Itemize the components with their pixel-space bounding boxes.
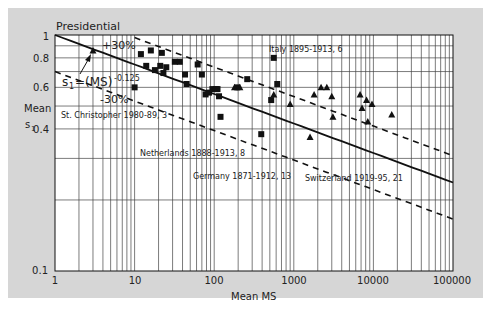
x-tick-10000: 10000	[357, 275, 389, 286]
svg-text:s: s	[62, 75, 68, 89]
x-tick-10: 10	[129, 275, 142, 286]
germany-label: Germany 1871-1912, 13	[193, 172, 291, 181]
square-marker	[157, 63, 163, 69]
x-axis-label: Mean MS	[231, 291, 276, 302]
square-marker	[177, 59, 183, 65]
svg-text:1: 1	[69, 82, 74, 91]
square-marker	[163, 64, 169, 70]
square-marker	[160, 70, 166, 76]
svg-text:=(MS): =(MS)	[75, 75, 112, 89]
chart-title: Presidential	[56, 20, 120, 33]
netherlands-label: Netherlands 1888-1913, 8	[140, 149, 245, 158]
square-marker	[271, 55, 277, 61]
switzerland-label: Switzerland 1919-95, 21	[305, 174, 403, 183]
square-marker	[132, 84, 138, 90]
square-marker	[138, 51, 144, 57]
x-tick-1000: 1000	[281, 275, 306, 286]
y-tick-0.8: 0.8	[33, 53, 49, 64]
x-tick-1: 1	[52, 275, 58, 286]
y-tick-0.1: 0.1	[32, 265, 48, 276]
square-marker	[152, 67, 158, 73]
square-marker	[214, 86, 220, 92]
svg-text:-0.125: -0.125	[114, 74, 140, 83]
y-axis-label-s: s	[25, 119, 30, 130]
square-marker	[159, 50, 165, 56]
square-marker	[195, 61, 201, 67]
y-tick-1: 1	[43, 31, 49, 42]
square-marker	[244, 76, 250, 82]
square-marker	[258, 131, 264, 137]
square-marker	[218, 114, 224, 120]
square-marker	[182, 72, 188, 78]
y-axis-label-sub: 1	[31, 125, 35, 133]
square-marker	[216, 93, 222, 99]
chart: Presidential 1 0.8 0.6 0.4 0.1 Mean s 1 …	[0, 0, 491, 320]
italy-label: Italy 1895-1913, 6	[269, 45, 343, 54]
st-christopher-label: St. Christopher 1980-89, 3	[61, 111, 167, 120]
y-tick-0.4: 0.4	[33, 124, 49, 135]
square-marker	[184, 81, 190, 87]
y-axis-label: Mean	[24, 103, 51, 114]
square-marker	[199, 72, 205, 78]
square-marker	[274, 81, 280, 87]
plus30-label: +30%	[102, 39, 136, 52]
square-marker	[143, 63, 149, 69]
y-tick-0.6: 0.6	[33, 82, 49, 93]
x-tick-100000: 100000	[433, 275, 471, 286]
x-tick-100: 100	[204, 275, 223, 286]
minus30-label: -30%	[100, 93, 128, 106]
plot-area	[55, 35, 453, 271]
square-marker	[268, 97, 274, 103]
square-marker	[148, 47, 154, 53]
